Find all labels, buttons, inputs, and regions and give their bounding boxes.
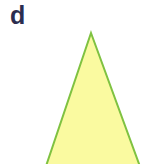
- figure-panel: d: [0, 0, 161, 164]
- panel-label: d: [10, 0, 25, 30]
- triangle-shape: [44, 33, 142, 164]
